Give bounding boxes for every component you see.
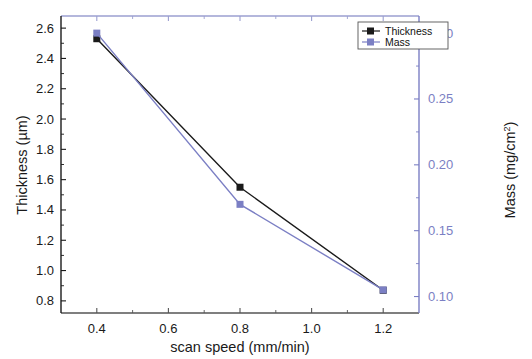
y-axis-right-title-base: Mass (mg/cm [502,131,518,218]
legend: Thickness Mass [358,22,448,49]
y-axis-right-title-close: ) [502,122,518,127]
y-axis-right-title: Mass (mg/cm2) [502,122,518,219]
chart-canvas: 0.81.01.21.41.61.82.02.22.42.6 0.100.150… [0,0,532,359]
y-axis-left-tick-label: 2.4 [36,51,54,66]
y-axis-right-tick-label: 0.25 [428,91,453,106]
y-axis-left-tick-label: 1.2 [36,233,54,248]
x-axis-tick-label: 1.0 [303,321,321,336]
legend-marker-thickness [367,28,374,35]
y-axis-right-tick-label: 0.10 [428,289,453,304]
y-axis-right-tick-label: 0.20 [428,157,453,172]
x-axis-tick-label: 0.6 [159,321,177,336]
chart-container: 0.81.01.21.41.61.82.02.22.42.6 0.100.150… [0,0,532,359]
x-axis-title: scan speed (mm/min) [170,339,309,355]
y-axis-left-tick-label: 1.8 [36,142,54,157]
x-axis-tick-label: 0.8 [231,321,249,336]
y-axis-left-tick-label: 2.2 [36,81,54,96]
y-axis-left-tick-label: 1.4 [36,202,54,217]
legend-label-mass: Mass [385,36,410,48]
data-point-mass [380,286,387,293]
data-point-thickness [237,184,244,191]
legend-marker-mass [367,39,374,46]
y-axis-left-tick-label: 1.0 [36,263,54,278]
y-axis-left-title: Thickness (µm) [14,115,30,214]
y-axis-left-tick-label: 2.6 [36,21,54,36]
y-axis-right-tick-label: 0.15 [428,223,453,238]
x-axis-tick-label: 0.4 [88,321,106,336]
data-point-mass [237,201,244,208]
y-axis-left-tick-label: 2.0 [36,112,54,127]
x-axis-tick-label: 1.2 [374,321,392,336]
chart-background [0,0,532,359]
y-axis-left-tick-label: 1.6 [36,172,54,187]
data-point-mass [93,30,100,37]
y-axis-left-tick-label: 0.8 [36,293,54,308]
